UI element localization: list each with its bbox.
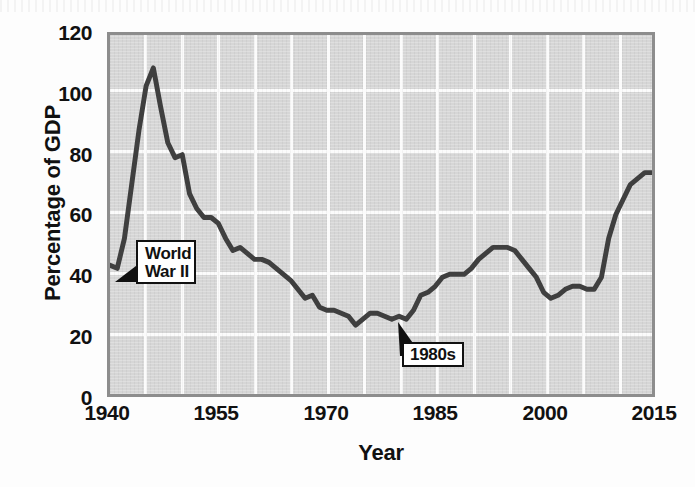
world-war-ii-callout-line2: War II: [145, 262, 189, 281]
x-axis-title: Year: [107, 440, 655, 466]
x-tick-label-1940: 1940: [62, 402, 152, 423]
world-war-ii-callout-line1: World: [145, 244, 191, 263]
series-polyline: [110, 68, 652, 325]
chart-figure: 120 100 80 60 40 20 0 Percentage of GDP: [0, 0, 695, 487]
y-tick-label-120: 120: [0, 22, 92, 43]
nineteen-eighties-callout: 1980s: [402, 342, 464, 367]
x-tick-label-2015: 2015: [609, 402, 695, 423]
x-tick-label-1970: 1970: [281, 402, 371, 423]
world-war-ii-callout: WorldWar II: [136, 240, 196, 284]
x-tick-label-1955: 1955: [171, 402, 261, 423]
debt-to-gdp-line-series: [110, 35, 652, 394]
y-axis-title: Percentage of GDP: [40, 53, 66, 353]
scan-noise-band: [0, 0, 695, 12]
x-tick-label-1985: 1985: [390, 402, 480, 423]
plot-area: [107, 32, 655, 397]
x-tick-label-2000: 2000: [500, 402, 590, 423]
